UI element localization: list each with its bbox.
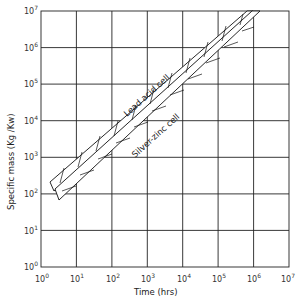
svg-text:102: 102 <box>106 272 120 284</box>
svg-text:104: 104 <box>24 114 38 126</box>
svg-text:104: 104 <box>177 272 191 284</box>
svg-text:106: 106 <box>24 41 38 53</box>
svg-text:100: 100 <box>24 260 38 272</box>
chart: 100 101 102 103 104 105 106 107 100 101 … <box>0 0 301 302</box>
svg-text:101: 101 <box>24 224 38 236</box>
svg-text:101: 101 <box>70 272 84 284</box>
svg-text:107: 107 <box>24 4 38 16</box>
svg-text:102: 102 <box>24 187 38 199</box>
x-axis-ticks: 100 101 102 103 104 105 106 107 <box>35 272 295 284</box>
svg-text:107: 107 <box>281 272 295 284</box>
y-axis-label: Specific mass (Kg /Kw) <box>6 113 16 210</box>
svg-text:103: 103 <box>141 272 155 284</box>
svg-text:100: 100 <box>35 272 49 284</box>
svg-text:106: 106 <box>247 272 261 284</box>
svg-text:105: 105 <box>24 77 38 89</box>
y-axis-ticks: 100 101 102 103 104 105 106 107 <box>24 4 38 272</box>
grid <box>41 11 289 267</box>
silver-zinc-band <box>55 11 260 200</box>
x-axis-label: Time (hrs) <box>133 287 177 297</box>
svg-text:105: 105 <box>212 272 226 284</box>
svg-text:103: 103 <box>24 150 38 162</box>
